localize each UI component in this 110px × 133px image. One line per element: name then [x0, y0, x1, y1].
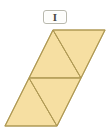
parallelogram-figure [0, 0, 110, 133]
diagram-canvas: I [0, 0, 110, 133]
